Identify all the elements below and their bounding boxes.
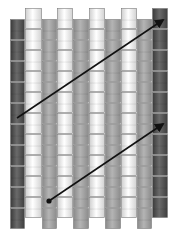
- bead-texture: [90, 188, 104, 189]
- bead-texture: [122, 104, 136, 105]
- bead: [74, 125, 89, 145]
- bead: [26, 30, 42, 50]
- bead-texture: [106, 73, 120, 74]
- bead: [122, 177, 137, 197]
- bead-texture: [90, 167, 104, 168]
- bead-texture: [26, 83, 41, 84]
- bead-column-1: [26, 9, 42, 218]
- bead-texture: [138, 157, 151, 158]
- bead-texture: [74, 52, 88, 53]
- bead-texture: [153, 167, 167, 168]
- bead-texture: [58, 167, 72, 168]
- bead: [138, 146, 152, 166]
- bead: [26, 9, 42, 29]
- bead-texture: [153, 188, 167, 189]
- bead: [122, 198, 137, 218]
- bead-texture: [122, 41, 136, 42]
- bead-texture: [138, 31, 151, 32]
- bead-texture: [153, 20, 167, 21]
- bead-texture: [122, 20, 136, 21]
- bead-texture: [153, 209, 167, 210]
- bead: [90, 177, 105, 197]
- bead: [58, 114, 73, 134]
- bead-texture: [26, 125, 41, 126]
- bead: [138, 41, 152, 61]
- bead: [74, 20, 89, 40]
- bead: [26, 198, 42, 218]
- bead-texture: [58, 62, 72, 63]
- bead-texture: [122, 167, 136, 168]
- bead-texture: [138, 115, 151, 116]
- bead: [138, 209, 152, 229]
- bead-texture: [43, 136, 56, 137]
- bead-texture: [26, 41, 41, 42]
- bead-texture: [43, 52, 56, 53]
- bead-texture: [90, 125, 104, 126]
- bead-texture: [11, 199, 24, 200]
- bead-texture: [90, 20, 104, 21]
- bead-texture: [11, 73, 24, 74]
- bead-column-0: [11, 20, 25, 229]
- bead-texture: [74, 220, 88, 221]
- bead-texture: [26, 62, 41, 63]
- bead-texture: [106, 178, 120, 179]
- bead-column-4: [74, 20, 89, 229]
- bead-texture: [11, 94, 24, 95]
- bead: [138, 62, 152, 82]
- bead: [11, 20, 25, 40]
- bead: [153, 198, 168, 218]
- bead: [58, 93, 73, 113]
- bead-texture: [11, 220, 24, 221]
- bead: [90, 93, 105, 113]
- bead: [43, 125, 57, 145]
- bead: [43, 41, 57, 61]
- bead: [122, 72, 137, 92]
- bead-texture: [90, 209, 104, 210]
- bead: [11, 209, 25, 229]
- bead: [26, 135, 42, 155]
- weave-canvas: [0, 0, 174, 241]
- bead-texture: [26, 167, 41, 168]
- bead: [153, 177, 168, 197]
- bead-weave-diagram: [0, 0, 174, 241]
- bead-texture: [11, 136, 24, 137]
- bead: [58, 198, 73, 218]
- bead: [11, 125, 25, 145]
- bead: [43, 209, 57, 229]
- bead: [43, 167, 57, 187]
- bead: [74, 104, 89, 124]
- bead: [43, 146, 57, 166]
- bead: [74, 146, 89, 166]
- bead: [26, 177, 42, 197]
- bead: [106, 188, 121, 208]
- bead: [122, 135, 137, 155]
- bead: [122, 156, 137, 176]
- bead: [58, 51, 73, 71]
- bead-texture: [43, 115, 56, 116]
- bead-texture: [122, 125, 136, 126]
- bead-texture: [43, 220, 56, 221]
- bead: [11, 41, 25, 61]
- bead-texture: [153, 104, 167, 105]
- bead-texture: [58, 41, 72, 42]
- bead: [153, 135, 168, 155]
- bead: [58, 135, 73, 155]
- bead: [11, 62, 25, 82]
- bead-texture: [11, 31, 24, 32]
- bead-texture: [74, 94, 88, 95]
- bead-texture: [58, 104, 72, 105]
- bead-texture: [11, 178, 24, 179]
- bead: [74, 188, 89, 208]
- bead: [26, 51, 42, 71]
- bead-texture: [106, 115, 120, 116]
- bead: [106, 83, 121, 103]
- bead: [43, 20, 57, 40]
- bead-texture: [90, 83, 104, 84]
- bead: [90, 9, 105, 29]
- bead: [153, 51, 168, 71]
- bead: [122, 114, 137, 134]
- bead-texture: [138, 199, 151, 200]
- bead: [58, 156, 73, 176]
- bead-texture: [122, 188, 136, 189]
- bead-texture: [26, 146, 41, 147]
